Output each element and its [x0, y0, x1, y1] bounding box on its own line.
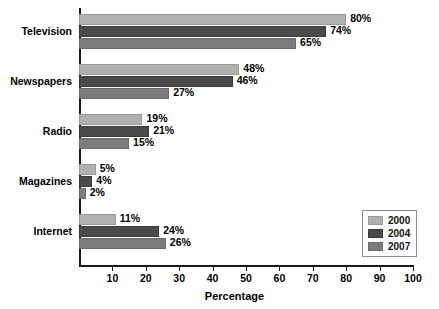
- bar-value-label: 46%: [237, 74, 258, 87]
- bar-row: 15%: [79, 138, 413, 149]
- x-axis-tick: [112, 265, 113, 271]
- bar-value-label: 27%: [173, 86, 194, 99]
- bar: [79, 38, 296, 49]
- bar-value-label: 11%: [120, 212, 140, 225]
- bar-group: 48%46%27%: [79, 64, 413, 100]
- bar-value-label: 65%: [300, 36, 321, 49]
- bar-group: 5%4%2%: [79, 164, 413, 200]
- bar-row: 21%: [79, 126, 413, 137]
- bar-value-label: 15%: [133, 136, 154, 149]
- bar: [79, 214, 116, 225]
- bar-row: 80%: [79, 14, 413, 25]
- x-axis-tick-label: 10: [107, 272, 119, 284]
- bar-value-label: 26%: [170, 236, 191, 249]
- category-label: Internet: [0, 225, 72, 237]
- bar: [79, 114, 142, 125]
- x-axis-tick: [279, 265, 280, 271]
- legend-item: 2000: [368, 215, 410, 226]
- bar-value-label: 80%: [350, 12, 371, 25]
- x-axis-tick-label: 50: [240, 272, 252, 284]
- legend-label: 2007: [388, 241, 410, 252]
- legend-swatch-icon: [368, 229, 383, 238]
- x-axis-tick-label: 70: [307, 272, 319, 284]
- x-axis-title: Percentage: [0, 290, 439, 302]
- x-axis-tick: [179, 265, 180, 271]
- x-axis-tick-label: 100: [404, 272, 422, 284]
- bar-row: 46%: [79, 76, 413, 87]
- bar: [79, 164, 96, 175]
- bar-row: 65%: [79, 38, 413, 49]
- bar-group: 19%21%15%: [79, 114, 413, 150]
- category-label: Newspapers: [0, 75, 72, 87]
- bar-chart: TelevisionNewspapersRadioMagazinesIntern…: [0, 0, 439, 309]
- x-axis-tick-label: 30: [173, 272, 185, 284]
- chart-legend: 200020042007: [362, 210, 417, 257]
- x-axis-tick: [213, 265, 214, 271]
- category-label: Radio: [0, 125, 72, 137]
- bar-value-label: 74%: [330, 24, 351, 37]
- x-axis-tick: [413, 265, 414, 271]
- x-axis-title-text: Percentage: [205, 290, 264, 302]
- legend-item: 2007: [368, 241, 410, 252]
- x-axis-tick: [313, 265, 314, 271]
- legend-label: 2004: [388, 228, 410, 239]
- category-label: Magazines: [0, 175, 72, 187]
- bar-row: 4%: [79, 176, 413, 187]
- category-label: Television: [0, 25, 72, 37]
- x-axis-tick: [146, 265, 147, 271]
- bar-group: 80%74%65%: [79, 14, 413, 50]
- bar: [79, 64, 239, 75]
- legend-item: 2004: [368, 228, 410, 239]
- x-axis-tick-label: 40: [207, 272, 219, 284]
- bar-row: 27%: [79, 88, 413, 99]
- bar-row: 74%: [79, 26, 413, 37]
- x-axis-tick-label: 20: [140, 272, 152, 284]
- bar: [79, 76, 233, 87]
- x-axis-tick-label: 90: [374, 272, 386, 284]
- bar: [79, 226, 159, 237]
- legend-swatch-icon: [368, 216, 383, 225]
- bar-value-label: 2%: [90, 186, 105, 199]
- legend-label: 2000: [388, 215, 410, 226]
- bar: [79, 14, 346, 25]
- bar: [79, 138, 129, 149]
- bar: [79, 88, 169, 99]
- category-axis-labels: TelevisionNewspapersRadioMagazinesIntern…: [0, 0, 78, 258]
- legend-swatch-icon: [368, 242, 383, 251]
- x-axis-tick-label: 80: [340, 272, 352, 284]
- bar-row: 2%: [79, 188, 413, 199]
- x-axis-tick: [380, 265, 381, 271]
- bar: [79, 26, 326, 37]
- bar: [79, 238, 166, 249]
- x-axis-tick: [246, 265, 247, 271]
- bar-row: 19%: [79, 114, 413, 125]
- x-axis-tick: [346, 265, 347, 271]
- bar-value-label: 21%: [153, 124, 174, 137]
- x-axis-tick-label: 60: [274, 272, 286, 284]
- bar: [79, 188, 86, 199]
- bar-row: 5%: [79, 164, 413, 175]
